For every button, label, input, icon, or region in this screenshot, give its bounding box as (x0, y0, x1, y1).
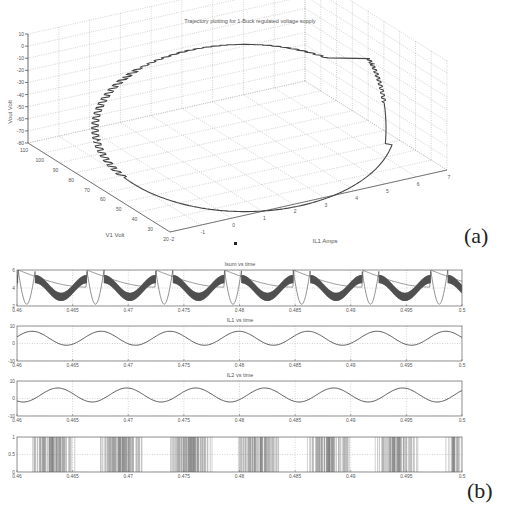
y-axis-label: V1 Volt (105, 232, 124, 238)
trajectory-curve (92, 44, 392, 211)
x-tick-label: 0.465 (67, 418, 79, 423)
y-tick-label: 0 (12, 470, 15, 475)
x-tick-label: 0.47 (124, 363, 134, 368)
svg-text:-80: -80 (17, 140, 24, 146)
x-tick-label: 0.47 (124, 474, 134, 479)
plot-area (17, 270, 462, 306)
subplot-isum: Isum vs time 0.460.4650.470.4750.480.485… (12, 261, 465, 313)
x-tick-label: 0.48 (235, 418, 245, 423)
subplot-switching: 0.460.4650.470.4750.480.4850.490.4950.51… (8, 435, 465, 479)
svg-text:4: 4 (355, 195, 358, 201)
x-tick-label: 0.49 (346, 418, 356, 423)
x-tick-label: 0.495 (400, 474, 412, 479)
y-tick-label: -10 (8, 414, 15, 419)
y-tick-label: -10 (8, 359, 15, 364)
svg-text:100: 100 (36, 157, 45, 163)
x-tick-label: 0.48 (235, 474, 245, 479)
subplot-title: IL2 vs time (227, 372, 254, 378)
plot-area (17, 381, 462, 416)
svg-text:60: 60 (100, 196, 106, 202)
subplot-title: IL1 vs time (227, 317, 254, 323)
subplot-il1: IL1 vs time 0.460.4650.470.4750.480.4850… (8, 317, 466, 368)
z-axis-label: Vout Volt (7, 100, 13, 124)
svg-text:-60: -60 (17, 116, 24, 122)
subplot-title: Isum vs time (225, 261, 256, 267)
x-tick-label: 0.465 (67, 474, 79, 479)
x-tick-label: 0.5 (459, 474, 466, 479)
x-tick-label: 0.47 (124, 418, 134, 423)
x-tick-label: 0.465 (67, 363, 79, 368)
svg-text:70: 70 (84, 187, 90, 193)
svg-text:0: 0 (21, 43, 24, 49)
x-tick-label: 0.475 (178, 363, 190, 368)
y-tick-label: 10 (10, 379, 16, 384)
svg-text:10: 10 (18, 31, 24, 37)
trajectory-3d-plot: Trajectory plotting for 1-Buck regulated… (7, 0, 451, 245)
svg-text:-30: -30 (17, 79, 24, 85)
x-tick-label: 0.485 (289, 418, 301, 423)
svg-text:7: 7 (448, 174, 451, 180)
svg-text:-1: -1 (201, 229, 206, 235)
x-tick-label: 0.49 (346, 474, 356, 479)
svg-text:0: 0 (232, 222, 235, 228)
svg-text:110: 110 (20, 147, 28, 153)
x-tick-label: 0.5 (459, 308, 466, 313)
x-tick-label: 0.47 (124, 308, 134, 313)
plot-area (17, 437, 462, 472)
svg-text:20: 20 (163, 236, 169, 242)
svg-text:-70: -70 (17, 128, 24, 134)
x-tick-label: 0.475 (178, 418, 190, 423)
plot-title: Trajectory plotting for 1-Buck regulated… (184, 18, 316, 24)
x-tick-label: 0.495 (400, 418, 412, 423)
x-tick-label: 0.5 (459, 363, 466, 368)
plot-area (17, 326, 462, 361)
svg-text:5: 5 (386, 188, 389, 194)
svg-text:90: 90 (53, 167, 59, 173)
x-tick-label: 0.495 (400, 363, 412, 368)
svg-text:30: 30 (147, 226, 153, 232)
svg-text:2: 2 (294, 208, 297, 214)
svg-text:50: 50 (116, 206, 122, 212)
svg-text:-20: -20 (17, 67, 24, 73)
x-tick-label: 0.48 (235, 363, 245, 368)
x-tick-label: 0.49 (346, 308, 356, 313)
panel-label-b: (b) (467, 478, 493, 504)
x-tick-label: 0.48 (235, 308, 245, 313)
panel-label-a: (a) (464, 223, 488, 249)
y-tick-label: 4 (12, 286, 15, 291)
svg-text:-50: -50 (17, 104, 24, 110)
svg-text:-2: -2 (170, 236, 175, 242)
y-tick-label: 2 (12, 304, 15, 309)
y-tick-label: 0 (12, 396, 15, 401)
x-tick-label: 0.485 (289, 308, 301, 313)
svg-text:-40: -40 (17, 92, 24, 98)
svg-text:-10: -10 (17, 55, 24, 61)
svg-text:3: 3 (324, 202, 327, 208)
x-axis-label: IL1 Amps (312, 238, 337, 244)
x-tick-label: 0.495 (400, 308, 412, 313)
x-tick-label: 0.475 (178, 308, 190, 313)
x-tick-label: 0.475 (178, 474, 190, 479)
x-tick-label: 0.485 (289, 474, 301, 479)
figure-canvas: Trajectory plotting for 1-Buck regulated… (0, 0, 518, 524)
y-tick-label: 0 (12, 341, 15, 346)
y-tick-label: 0.5 (8, 452, 15, 457)
x-tick-label: 0.5 (459, 418, 466, 423)
grid-lines (28, 0, 447, 232)
y-tick-label: 10 (10, 324, 16, 329)
marker-dot (234, 242, 237, 245)
y-tick-label: 1 (12, 435, 15, 440)
svg-text:80: 80 (69, 177, 75, 183)
x-tick-label: 0.49 (346, 363, 356, 368)
subplot-il2: IL2 vs time 0.460.4650.470.4750.480.4850… (8, 372, 466, 423)
x-tick-label: 0.485 (289, 363, 301, 368)
y-tick-label: 6 (12, 268, 15, 273)
x-tick-label: 0.465 (67, 308, 79, 313)
svg-text:1: 1 (263, 215, 266, 221)
svg-text:40: 40 (132, 216, 138, 222)
svg-text:6: 6 (417, 181, 420, 187)
